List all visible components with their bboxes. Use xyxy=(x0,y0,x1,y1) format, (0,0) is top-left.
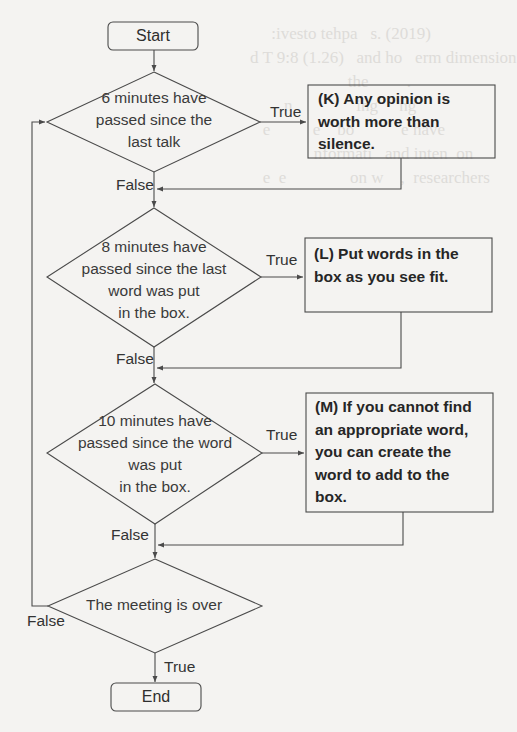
decision-1-line: passed since the xyxy=(96,109,212,131)
decision-2-line: word was put xyxy=(108,280,199,302)
action-m-line: you can create the xyxy=(315,441,491,464)
connector-m-merge xyxy=(158,512,403,545)
decision-1-line: last talk xyxy=(128,131,181,153)
end-terminal: End xyxy=(111,683,201,711)
decision-3-line: 10 minutes have xyxy=(98,410,212,432)
edge-label-d4-true: True xyxy=(164,658,195,676)
decision-3-line: was put xyxy=(128,454,181,476)
decision-3-text: 10 minutes have passed since the word wa… xyxy=(60,410,250,498)
start-terminal: Start xyxy=(108,22,198,50)
edge-label-d3-false: False xyxy=(111,526,149,544)
decision-1-line: 6 minutes have xyxy=(101,87,206,109)
decision-4-line: The meeting is over xyxy=(86,594,222,616)
connector-d4-false-loop xyxy=(32,122,48,606)
decision-3-line: in the box. xyxy=(119,476,191,498)
action-l-line: box as you see fit. xyxy=(314,266,489,289)
edge-label-d3-true: True xyxy=(266,426,297,444)
action-k-line: worth more than xyxy=(318,111,490,134)
action-m-line: (M) If you cannot find xyxy=(315,396,491,419)
action-m-line: word to add to the xyxy=(315,464,491,487)
decision-4-text: The meeting is over xyxy=(64,594,244,616)
decision-3-line: passed since the word xyxy=(78,432,232,454)
decision-2-line: in the box. xyxy=(118,302,190,324)
edge-label-d4-false: False xyxy=(27,612,65,630)
edge-label-d2-false: False xyxy=(116,350,154,368)
action-l-text: (L) Put words in the box as you see fit. xyxy=(314,243,489,288)
action-k-text: (K) Any opinion is worth more than silen… xyxy=(318,88,490,156)
decision-2-text: 8 minutes have passed since the last wor… xyxy=(64,236,244,324)
edge-label-d1-true: True xyxy=(270,103,301,121)
connector-k-merge xyxy=(157,158,401,189)
decision-2-line: passed since the last xyxy=(82,258,227,280)
action-k-line: (K) Any opinion is xyxy=(318,88,490,111)
action-m-line: box. xyxy=(315,486,491,509)
edge-label-d2-true: True xyxy=(266,251,297,269)
action-k-line: silence. xyxy=(318,133,490,156)
decision-1-text: 6 minutes have passed since the last tal… xyxy=(74,87,234,153)
action-m-line: an appropriate word, xyxy=(315,419,491,442)
action-l-line: (L) Put words in the xyxy=(314,243,489,266)
decision-2-line: 8 minutes have xyxy=(101,236,206,258)
action-m-text: (M) If you cannot find an appropriate wo… xyxy=(315,396,491,509)
edge-label-d1-false: False xyxy=(116,176,154,194)
